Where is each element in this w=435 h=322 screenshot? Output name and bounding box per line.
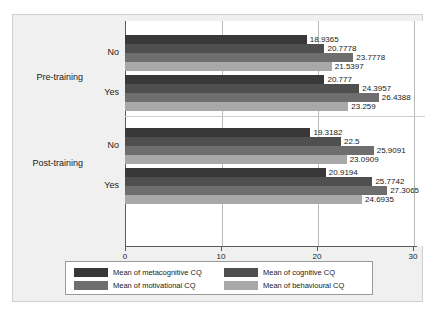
x-tick-label: 10 xyxy=(217,252,226,261)
x-tick-mark xyxy=(413,247,414,251)
bar xyxy=(125,195,362,204)
chart-screenshot: 0102030 18.936520.777823.777821.539720.7… xyxy=(0,0,435,322)
legend-label: Mean of cognitive CQ xyxy=(263,268,335,277)
bar xyxy=(125,168,326,177)
bar-value-label: 25.7742 xyxy=(375,177,404,186)
group-label-0: Pre-training xyxy=(13,72,83,82)
bar xyxy=(125,177,372,186)
bar-value-label: 18.9365 xyxy=(310,35,339,44)
bar xyxy=(125,62,332,71)
subgroup-label-1: Yes xyxy=(83,87,119,97)
bar xyxy=(125,137,341,146)
bar-value-label: 19.3182 xyxy=(313,128,342,137)
bar-value-label: 24.3957 xyxy=(362,84,391,93)
gridline xyxy=(414,21,415,246)
bar-value-label: 23.0909 xyxy=(350,155,379,164)
x-tick-label: 30 xyxy=(409,252,418,261)
bar xyxy=(125,146,374,155)
bar-value-label: 20.7778 xyxy=(327,44,356,53)
bar xyxy=(125,84,359,93)
bar-value-label: 21.5397 xyxy=(335,62,364,71)
group-label-1: Post-training xyxy=(13,158,83,168)
bar-value-label: 23.7778 xyxy=(356,53,385,62)
subgroup-label-3: Yes xyxy=(83,180,119,190)
bar-value-label: 23.259 xyxy=(351,102,375,111)
legend-item: Mean of metacognitive CQ xyxy=(74,268,202,277)
x-tick-mark xyxy=(317,247,318,251)
bar xyxy=(125,35,307,44)
bar-value-label: 27.3065 xyxy=(390,186,419,195)
bar-value-label: 20.9194 xyxy=(329,168,358,177)
x-tick-label: 20 xyxy=(313,252,322,261)
legend-swatch-icon xyxy=(74,268,108,277)
chart-legend: Mean of metacognitive CQMean of cognitiv… xyxy=(65,261,373,295)
bar xyxy=(125,75,324,84)
bar xyxy=(125,155,347,164)
x-tick-mark xyxy=(221,247,222,251)
bar xyxy=(125,128,310,137)
bar-value-label: 24.6935 xyxy=(365,195,394,204)
legend-label: Mean of metacognitive CQ xyxy=(113,268,202,277)
legend-item: Mean of behavioural CQ xyxy=(224,281,344,290)
x-tick-label: 0 xyxy=(123,252,127,261)
legend-swatch-icon xyxy=(74,281,108,290)
subgroup-label-0: No xyxy=(83,47,119,57)
legend-swatch-icon xyxy=(224,268,258,277)
x-axis-line xyxy=(125,246,417,247)
bar-value-label: 20.777 xyxy=(327,75,351,84)
bar xyxy=(125,186,387,195)
bar-value-label: 25.9091 xyxy=(377,146,406,155)
legend-label: Mean of behavioural CQ xyxy=(263,281,344,290)
bar xyxy=(125,102,348,111)
bar xyxy=(125,44,324,53)
bar-value-label: 22.5 xyxy=(344,137,360,146)
bar xyxy=(125,53,353,62)
chart-panel: 0102030 18.936520.777823.777821.539720.7… xyxy=(12,14,423,302)
subgroup-label-2: No xyxy=(83,140,119,150)
legend-swatch-icon xyxy=(224,281,258,290)
bar-value-label: 26.4388 xyxy=(382,93,411,102)
bar xyxy=(125,93,379,102)
legend-item: Mean of cognitive CQ xyxy=(224,268,335,277)
legend-label: Mean of motivational CQ xyxy=(113,281,196,290)
legend-item: Mean of motivational CQ xyxy=(74,281,196,290)
group-separator xyxy=(125,116,425,117)
x-tick-mark xyxy=(125,247,126,251)
